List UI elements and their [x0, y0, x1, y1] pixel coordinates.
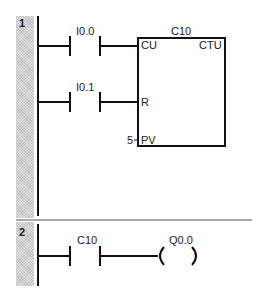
- counter-input-pv: PV: [141, 134, 156, 146]
- counter-input-r: R: [141, 96, 149, 108]
- counter-box-c10[interactable]: [138, 38, 225, 146]
- contact-c10-label: C10: [77, 234, 97, 246]
- counter-input-cu: CU: [141, 39, 157, 51]
- preset-value[interactable]: 5: [127, 134, 133, 146]
- contact-i0-0[interactable]: [38, 36, 138, 56]
- counter-type-label: CTU: [199, 39, 222, 51]
- contact-i0-1-label: I0.1: [76, 81, 94, 93]
- coil-q0-0[interactable]: [160, 247, 196, 265]
- coil-q0-0-label: Q0.0: [169, 234, 193, 246]
- contact-i0-1[interactable]: [38, 92, 138, 112]
- contact-i0-0-label: I0.0: [76, 25, 94, 37]
- counter-name-label: C10: [171, 25, 191, 37]
- contact-c10[interactable]: [38, 246, 158, 266]
- ladder-diagram: [0, 0, 262, 302]
